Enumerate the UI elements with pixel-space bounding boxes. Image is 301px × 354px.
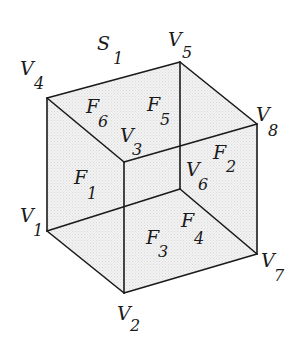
vertex-label-v5: V 5: [168, 28, 192, 62]
vertex-label-v2: V 2: [117, 302, 140, 335]
surface-label-s1: S 1: [97, 32, 123, 68]
vertex-label-v1: V 1: [20, 204, 43, 240]
vertex-label-v8: V 8: [256, 103, 278, 140]
vertex-label-v4: V 4: [20, 57, 44, 93]
cube-diagram: S 1 V 4 V 5 V 8 V 3 V 6 V 1 V 2 V 7 F 6 …: [0, 0, 301, 354]
vertex-label-v7: V 7: [261, 249, 285, 285]
